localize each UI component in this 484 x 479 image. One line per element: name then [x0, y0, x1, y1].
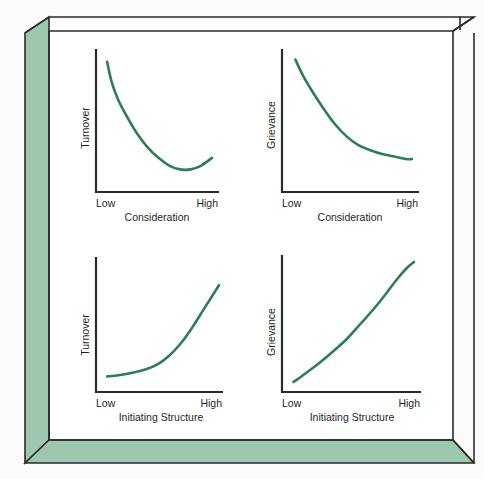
- frame-bottom-panel: [25, 440, 474, 463]
- chart3-xlabel: Initiating Structure: [119, 411, 204, 423]
- chart4-xtick-high: High: [398, 397, 420, 409]
- chart1-xtick-high: High: [196, 197, 218, 209]
- chart3-xtick-low: Low: [96, 397, 116, 409]
- chart2-xtick-low: Low: [282, 197, 302, 209]
- figure-root: Low High Consideration Turnover Low High…: [0, 0, 484, 479]
- chart3-xtick-high: High: [200, 397, 222, 409]
- chart3-ylabel: Turnover: [79, 314, 91, 356]
- chart1-xtick-low: Low: [96, 197, 116, 209]
- chart1-ylabel: Turnover: [79, 107, 91, 149]
- chart4-ylabel: Grievance: [265, 308, 277, 356]
- figure-canvas: Low High Consideration Turnover Low High…: [0, 0, 484, 479]
- chart2-ylabel: Grievance: [265, 101, 277, 149]
- chart2-xtick-high: High: [396, 197, 418, 209]
- frame-inner-face: [49, 22, 453, 454]
- chart4-xtick-low: Low: [282, 397, 302, 409]
- chart4-xlabel: Initiating Structure: [310, 411, 395, 423]
- chart2-xlabel: Consideration: [318, 211, 383, 223]
- chart1-xlabel: Consideration: [125, 211, 190, 223]
- frame-left-panel: [25, 17, 49, 463]
